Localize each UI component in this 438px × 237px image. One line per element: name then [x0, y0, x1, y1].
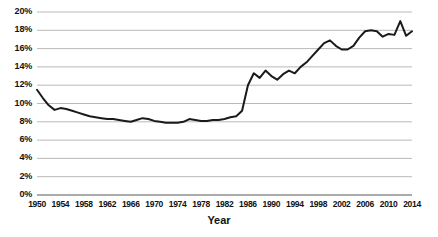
y-axis-tick-label: 10%	[0, 98, 32, 108]
data-series-line	[37, 21, 412, 123]
line-chart: 0%2%4%6%8%10%12%14%16%18%20% 19501954195…	[0, 0, 438, 237]
y-axis-tick-label: 0%	[0, 189, 32, 199]
y-axis-tick-label: 2%	[0, 171, 32, 181]
y-axis-tick-label: 12%	[0, 79, 32, 89]
y-axis-tick-label: 6%	[0, 134, 32, 144]
x-axis-title: Year	[0, 214, 438, 226]
x-axis-tick-label: 2014	[396, 199, 428, 209]
y-axis-tick-label: 4%	[0, 152, 32, 162]
y-axis-tick-label: 20%	[0, 6, 32, 16]
y-axis-tick-label: 16%	[0, 43, 32, 53]
gridlines	[37, 12, 412, 195]
y-axis-tick-label: 8%	[0, 116, 32, 126]
y-axis-tick-label: 14%	[0, 61, 32, 71]
y-axis-tick-label: 18%	[0, 24, 32, 34]
